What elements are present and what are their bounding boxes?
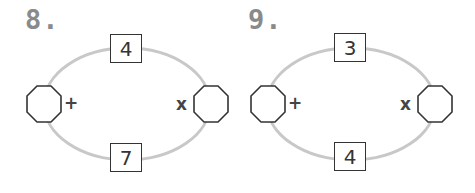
puzzle-9: 9. 3 4 + x bbox=[235, 0, 470, 193]
left-answer-octagon[interactable] bbox=[250, 85, 286, 123]
left-answer-octagon[interactable] bbox=[26, 85, 62, 123]
right-answer-octagon[interactable] bbox=[193, 85, 229, 123]
top-number-box: 3 bbox=[334, 33, 366, 62]
multiply-operator: x bbox=[400, 94, 411, 114]
bottom-number-box: 4 bbox=[334, 142, 366, 171]
plus-operator: + bbox=[288, 93, 302, 113]
bottom-number-box: 7 bbox=[110, 143, 142, 172]
right-answer-octagon[interactable] bbox=[417, 85, 453, 123]
multiply-operator: x bbox=[176, 94, 187, 114]
plus-operator: + bbox=[64, 93, 78, 113]
puzzle-8: 8. 4 7 + x bbox=[0, 0, 235, 193]
top-number-box: 4 bbox=[110, 34, 142, 63]
